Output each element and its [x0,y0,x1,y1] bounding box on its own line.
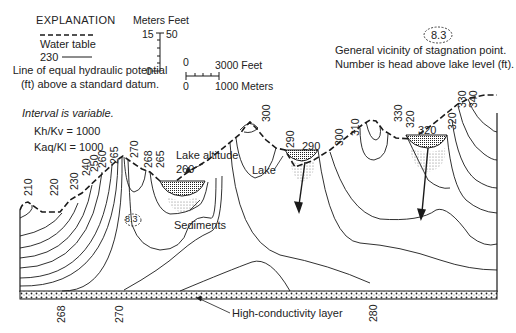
vertical-scale-bar [152,33,164,71]
lake-label: Lake [252,164,276,176]
contour-label-320-right: 320 [446,112,458,130]
contour-label-230: 230 [68,172,80,190]
high-conductivity-layer-label: High-conductivity layer [232,307,343,319]
horizontal-scale-bar [186,72,219,80]
stagnation-point-value: 8.3 [125,214,138,224]
contour-label-300-left: 300 [260,104,272,122]
contour-label-290: 290 [284,130,296,148]
lake-altitude-label: Lake altitude [176,149,238,161]
lake-290-value: 290 [302,140,320,152]
sediments-label: Sediments [174,219,226,231]
contour-label-220: 220 [48,178,60,196]
contour-label-265-left: 265 [108,146,120,164]
contour-label-265-right: 265 [154,150,166,168]
contour-label-270: 270 [128,140,140,158]
contour-label-300-right: 300 [333,128,345,146]
contour-label-268: 268 [142,150,154,168]
contour-label-270-bottom: 270 [113,305,125,323]
contour-label-210: 210 [22,178,34,196]
lake-260 [160,181,205,213]
stagnation-legend-symbol [424,27,452,43]
lake-290 [285,150,318,182]
lake-320-value: 320 [418,124,436,136]
contour-label-330-left: 330 [392,104,404,122]
contour-label-260: 260 [96,150,108,168]
high-conductivity-layer [20,291,497,299]
contour-label-340: 340 [467,90,479,108]
contour-label-280-bottom: 280 [367,304,379,322]
contour-label-320-left: 320 [404,110,416,128]
contour-label-268-bottom: 268 [55,305,67,323]
contour-label-310: 310 [349,118,361,136]
lake-altitude-value: 260 [176,163,194,175]
